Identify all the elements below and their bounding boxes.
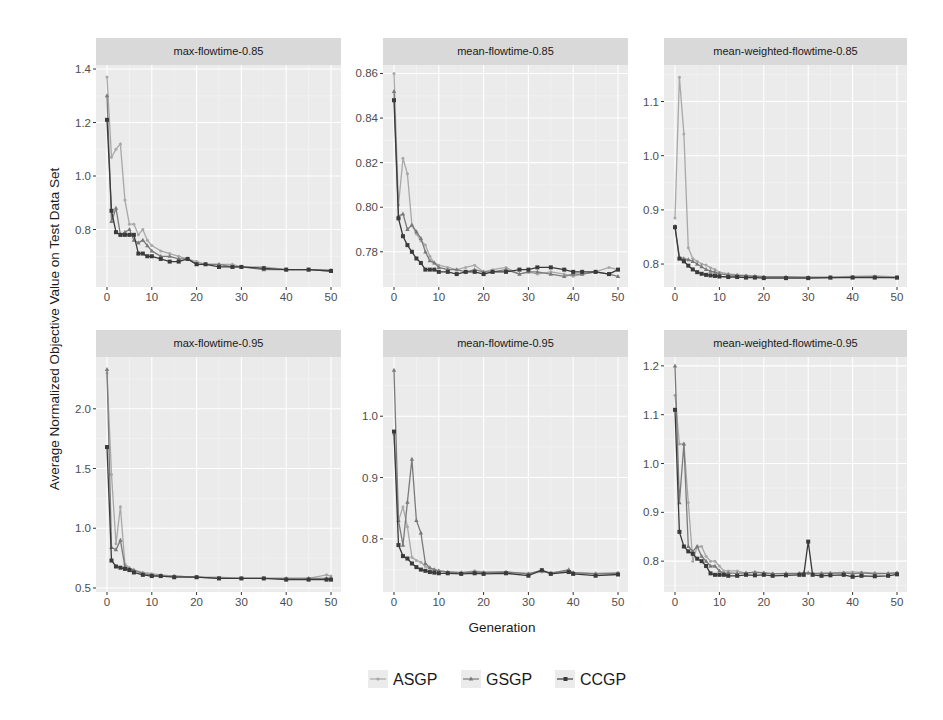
square-marker-icon [159,574,163,578]
x-tick-label: 40 [280,596,293,608]
x-tick-label: 0 [672,596,678,608]
y-tick-label: 1.0 [75,170,91,182]
square-marker-icon [784,276,788,280]
square-marker-icon [150,254,154,258]
square-marker-icon [806,276,810,280]
square-marker-icon [410,561,414,565]
square-marker-icon [150,574,154,578]
square-marker-icon [717,274,721,278]
square-marker-icon [195,262,199,266]
legend-label-ccgp: CCGP [580,671,626,688]
square-marker-icon [526,574,530,578]
square-marker-icon [455,272,459,276]
dot-marker-icon [146,239,149,242]
y-tick-label: 1.1 [643,96,659,108]
square-marker-icon [673,408,677,412]
square-marker-icon [616,268,620,272]
square-marker-icon [526,268,530,272]
square-marker-icon [325,578,329,582]
y-tick-label: 1.4 [75,63,92,75]
square-marker-icon [504,270,508,274]
facet-title: max-flowtime-0.95 [174,337,264,349]
square-marker-icon [414,565,418,569]
square-marker-icon [895,276,899,280]
y-tick-label: 1.0 [643,150,659,162]
square-marker-icon [428,268,432,272]
x-tick-label: 30 [235,291,248,303]
square-marker-icon [392,98,396,102]
square-marker-icon [811,573,815,577]
square-marker-icon [405,557,409,561]
dot-marker-icon [119,142,122,145]
y-tick-label: 1.0 [643,458,659,470]
square-marker-icon [446,270,450,274]
square-marker-icon [262,266,266,270]
dot-marker-icon [114,542,117,545]
square-marker-icon [114,230,118,234]
square-marker-icon [204,262,208,266]
square-marker-icon [806,540,810,544]
square-marker-icon [118,566,122,570]
square-marker-icon [842,573,846,577]
x-tick-label: 0 [104,291,110,303]
dot-marker-icon [608,266,611,269]
square-marker-icon [195,575,199,579]
square-marker-icon [753,573,757,577]
dot-marker-icon [119,505,122,508]
x-tick-label: 30 [522,596,535,608]
square-marker-icon [177,260,181,264]
square-marker-icon [762,573,766,577]
x-tick-label: 40 [846,291,859,303]
square-marker-icon [239,265,243,269]
square-marker-icon [428,570,432,574]
y-tick-label: 1.5 [75,463,91,475]
square-marker-icon [482,572,486,576]
square-marker-icon [594,574,598,578]
square-marker-icon [851,276,855,280]
square-marker-icon [677,257,681,261]
square-marker-icon [594,270,598,274]
y-tick-label: 0.8 [75,224,91,236]
x-tick-label: 20 [757,291,770,303]
square-marker-icon [717,573,721,577]
square-marker-icon [700,559,704,563]
square-marker-icon [762,276,766,280]
x-tick-label: 50 [891,291,904,303]
facet-title: max-flowtime-0.85 [174,45,264,57]
square-marker-icon [873,276,877,280]
dot-marker-icon [114,148,117,151]
square-marker-icon [127,568,131,572]
x-tick-label: 0 [104,596,110,608]
x-tick-label: 20 [757,596,770,608]
x-tick-label: 10 [432,291,445,303]
x-tick-label: 10 [145,596,158,608]
dot-marker-icon [473,264,476,267]
y-tick-label: 2.0 [75,403,91,415]
dot-marker-icon [709,560,712,563]
square-marker-icon [262,576,266,580]
square-marker-icon [682,545,686,549]
square-marker-icon [828,276,832,280]
legend-item-asgp: ASGP [368,670,437,688]
square-marker-icon [432,268,436,272]
x-tick-label: 20 [190,596,203,608]
dot-marker-icon [705,555,708,558]
square-marker-icon [709,571,713,575]
square-marker-icon [459,572,463,576]
x-tick-label: 40 [567,291,580,303]
dot-marker-icon [406,525,409,528]
square-marker-icon [859,574,863,578]
square-marker-icon [446,571,450,575]
x-tick-label: 20 [477,596,490,608]
square-marker-icon [873,574,877,578]
square-marker-icon [437,571,441,575]
square-marker-icon [118,233,122,237]
square-marker-icon [784,573,788,577]
square-marker-icon [307,578,311,582]
x-tick-label: 20 [190,291,203,303]
square-marker-icon [392,430,396,434]
square-marker-icon [735,275,739,279]
x-tick-label: 30 [802,596,815,608]
square-marker-icon [517,268,521,272]
y-tick-label: 0.9 [362,472,378,484]
